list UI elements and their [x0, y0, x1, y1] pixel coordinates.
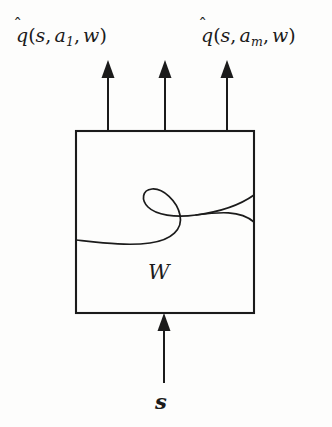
arg-weights: w	[272, 24, 288, 46]
arg-action: a	[54, 24, 65, 46]
open-paren: (	[28, 24, 35, 46]
weight-label: W	[148, 262, 170, 283]
arrow-head-icon	[221, 60, 234, 78]
weight-box	[76, 131, 254, 313]
close-paren: )	[288, 24, 295, 46]
arg-action: a	[239, 24, 250, 46]
input-label: s	[155, 391, 167, 412]
q-hat-symbol: q̂	[201, 26, 213, 45]
output-arrow-2	[159, 60, 172, 131]
comma-1: ,	[45, 24, 52, 46]
output-arrow-3	[221, 60, 234, 131]
close-paren: )	[99, 24, 106, 46]
figure-root: q̂(s, a1, w) q̂(s, am, w) W s	[0, 0, 332, 427]
arg-state: s	[36, 24, 46, 46]
comma-2: ,	[74, 24, 81, 46]
output-label-right: q̂(s, am, w)	[201, 26, 296, 48]
arrow-head-icon	[102, 60, 115, 78]
weight-curve-tail-icon	[196, 213, 254, 222]
weight-curve-icon	[76, 189, 254, 244]
comma-2: ,	[263, 24, 270, 46]
action-subscript: m	[251, 34, 263, 49]
open-paren: (	[213, 24, 220, 46]
action-subscript: 1	[66, 34, 74, 49]
output-arrow-1	[102, 60, 115, 131]
arrow-head-icon	[159, 60, 172, 78]
output-label-left: q̂(s, a1, w)	[16, 26, 107, 48]
input-arrow	[158, 313, 171, 383]
comma-1: ,	[230, 24, 237, 46]
arg-weights: w	[83, 24, 99, 46]
arrow-head-icon	[158, 313, 171, 331]
arg-state: s	[221, 24, 231, 46]
q-hat-symbol: q̂	[16, 26, 28, 45]
diagram-canvas	[0, 0, 332, 427]
